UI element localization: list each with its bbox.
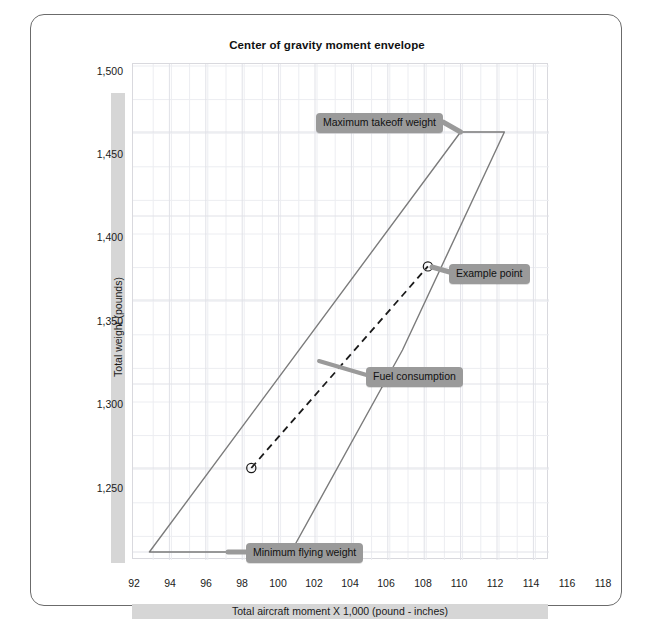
y-tick-label: 1,300 — [77, 398, 123, 410]
x-tick-label: 92 — [119, 577, 149, 589]
x-tick-label: 112 — [480, 577, 510, 589]
y-tick-label: 1,500 — [77, 65, 123, 77]
chart-svg — [133, 64, 549, 560]
callout-max-takeoff-weight[interactable]: Maximum takeoff weight — [316, 113, 443, 133]
envelope-boundary — [149, 132, 504, 552]
max-takeoff-leader — [443, 122, 461, 132]
x-tick-label: 116 — [552, 577, 582, 589]
x-tick-label: 114 — [516, 577, 546, 589]
y-tick-label: 1,450 — [77, 148, 123, 160]
plot-area: Maximum takeoff weight Example point Fue… — [132, 63, 548, 559]
callout-fuel-consumption[interactable]: Fuel consumption — [366, 367, 463, 387]
x-tick-label: 110 — [444, 577, 474, 589]
figure-frame: Center of gravity moment envelope Normal… — [30, 14, 622, 606]
x-tick-label: 98 — [227, 577, 257, 589]
x-axis-title-band: Total aircraft moment X 1,000 (pound - i… — [132, 604, 548, 619]
x-tick-label: 96 — [191, 577, 221, 589]
y-tick-label: 1,400 — [77, 231, 123, 243]
chart-title: Center of gravity moment envelope — [31, 39, 623, 51]
y-tick-label: 1,350 — [77, 315, 123, 327]
callout-example-point[interactable]: Example point — [449, 264, 530, 284]
y-axis-title: Total weight (pounds) — [112, 227, 124, 427]
x-tick-label: 108 — [408, 577, 438, 589]
grid-minor — [133, 64, 549, 560]
x-tick-label: 100 — [263, 577, 293, 589]
x-tick-label: 94 — [155, 577, 185, 589]
x-tick-label: 102 — [299, 577, 329, 589]
x-tick-label: 104 — [335, 577, 365, 589]
x-tick-label: 106 — [371, 577, 401, 589]
figure-page: Center of gravity moment envelope Normal… — [0, 0, 653, 640]
x-axis-title: Total aircraft moment X 1,000 (pound - i… — [132, 605, 548, 617]
callout-minimum-flying-weight[interactable]: Minimum flying weight — [246, 543, 363, 563]
y-tick-label: 1,250 — [77, 482, 123, 494]
x-tick-label: 118 — [588, 577, 618, 589]
grid-major — [133, 64, 549, 560]
